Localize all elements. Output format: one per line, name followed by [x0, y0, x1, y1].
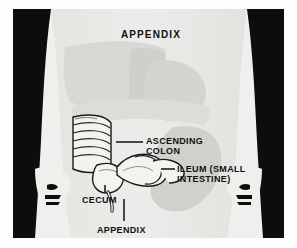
- hand-right-finger-gap-2: [237, 202, 251, 205]
- label-ascending-colon: ASCENDINGCOLON: [146, 136, 203, 156]
- hand-left-finger-gap-1: [45, 195, 61, 199]
- label-appendix: APPENDIX: [97, 225, 146, 235]
- label-ascending-colon-line2: COLON: [146, 146, 180, 156]
- anatomy-illustration: [13, 9, 284, 238]
- anatomy-figure: APPENDIX ASCENDINGCOLON ILEUM (SMALLINTE…: [0, 0, 297, 248]
- hand-right-finger-gap-1: [236, 195, 252, 199]
- label-ileum-line1: ILEUM (SMALL: [177, 164, 246, 174]
- label-cecum: CECUM: [82, 195, 117, 205]
- label-ascending-colon-line1: ASCENDING: [146, 136, 203, 146]
- label-ileum-line2: INTESTINE): [177, 174, 231, 184]
- illustration-panel: APPENDIX ASCENDINGCOLON ILEUM (SMALLINTE…: [13, 9, 284, 238]
- figure-title: APPENDIX: [121, 30, 181, 40]
- hand-left-finger-gap-2: [46, 202, 60, 205]
- label-ileum: ILEUM (SMALLINTESTINE): [177, 164, 246, 184]
